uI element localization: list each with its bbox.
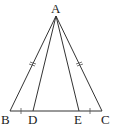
segment-ae [56,16,79,111]
segment-ab [10,16,56,111]
label-b: B [1,112,10,126]
label-a: A [51,1,61,16]
label-e: E [74,112,82,126]
triangle-diagram: A B D E C [0,0,113,126]
segment-ac [56,16,102,111]
segment-ad [33,16,56,111]
label-d: D [28,112,37,126]
label-c: C [101,112,110,126]
